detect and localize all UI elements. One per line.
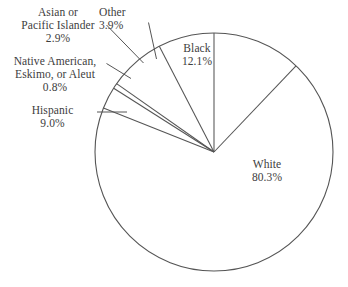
slice-label-native-american: Native American, Eskimo, or Aleut 0.8% [0, 55, 110, 95]
slice-label-native-name-line1: Native American, [0, 55, 110, 68]
slice-label-other: Other 3.9% [99, 6, 145, 32]
slice-label-native-percent: 0.8% [0, 81, 110, 94]
slice-label-black-percent: 12.1% [168, 55, 226, 68]
slice-label-asian-name-line1: Asian or [6, 6, 110, 19]
slice-label-other-name: Other [99, 6, 145, 19]
slice-label-black-name: Black [168, 42, 226, 55]
slice-label-black: Black 12.1% [168, 42, 226, 68]
slice-label-asian-pacific-islander: Asian or Pacific Islander 2.9% [6, 6, 110, 46]
slice-label-hispanic-percent: 9.0% [10, 117, 95, 130]
slice-label-white-name: White [238, 158, 296, 171]
slice-label-hispanic-name: Hispanic [10, 104, 95, 117]
slice-label-hispanic: Hispanic 9.0% [10, 104, 95, 130]
slice-label-asian-percent: 2.9% [6, 32, 110, 45]
slice-label-white-percent: 80.3% [238, 171, 296, 184]
pie-chart: Asian or Pacific Islander 2.9% Other 3.9… [0, 0, 348, 287]
slice-label-native-name-line2: Eskimo, or Aleut [0, 68, 110, 81]
slice-label-other-percent: 3.9% [99, 19, 145, 32]
slice-label-asian-name-line2: Pacific Islander [6, 19, 110, 32]
slice-label-white: White 80.3% [238, 158, 296, 184]
